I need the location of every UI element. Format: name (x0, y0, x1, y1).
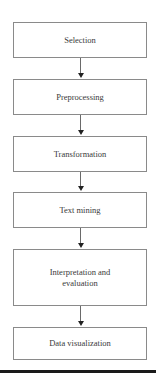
connector-line (80, 172, 81, 187)
step-label: Transformation (46, 149, 115, 160)
step-interpretation-evaluation: Interpretation and evaluation (13, 249, 147, 306)
arrow-down-icon (78, 73, 84, 78)
arrow-down-icon (78, 186, 84, 191)
step-label: Text mining (51, 205, 108, 216)
connector-line (80, 115, 81, 131)
step-label: Preprocessing (48, 92, 112, 103)
step-transformation: Transformation (13, 136, 147, 172)
step-label: Interpretation and evaluation (14, 267, 146, 289)
arrow-down-icon (78, 130, 84, 135)
step-selection: Selection (13, 22, 147, 58)
bottom-rule (0, 370, 156, 373)
step-label: Selection (56, 35, 104, 46)
connector-line (80, 58, 81, 74)
arrow-down-icon (78, 321, 84, 326)
step-label: Data visualization (41, 338, 119, 349)
step-text-mining: Text mining (13, 192, 147, 228)
step-preprocessing: Preprocessing (13, 79, 147, 115)
arrow-down-icon (78, 243, 84, 248)
connector-line (80, 306, 81, 322)
connector-line (80, 228, 81, 244)
step-data-visualization: Data visualization (13, 327, 147, 360)
